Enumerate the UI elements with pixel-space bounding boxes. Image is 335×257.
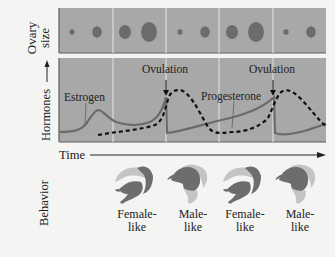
behavior-label-4: Male- like — [275, 208, 325, 234]
lizard-pair-icon-4 — [275, 164, 315, 203]
behavior-label-1-line2: like — [112, 221, 162, 234]
time-axis-label: Time — [59, 149, 85, 161]
ovulation-label-2: Ovulation — [249, 63, 295, 75]
ovary-size-axis-label: Ovary size — [25, 17, 53, 59]
behavior-label-3-line2: like — [220, 221, 270, 234]
estrogen-label: Estrogen — [64, 91, 105, 103]
lizard-pair-icon-1 — [115, 166, 153, 203]
behavior-label-2: Male- like — [168, 208, 218, 234]
behavior-axis-label: Behavior — [38, 175, 52, 231]
ovulation-label-1: Ovulation — [142, 63, 188, 75]
lizard-pair-icon-2 — [167, 164, 207, 203]
behavior-label-3: Female- like — [220, 208, 270, 234]
behavior-label-1: Female- like — [112, 208, 162, 234]
hormones-axis-arrow — [45, 60, 50, 82]
lizard-pair-icon-3 — [223, 166, 261, 203]
behavior-label-4-line2: like — [275, 221, 325, 234]
behavior-label-2-line2: like — [168, 221, 218, 234]
ovary-label-line2: size — [38, 17, 51, 59]
ovary-size-panel — [59, 8, 326, 53]
progesterone-label: Progesterone — [201, 90, 261, 102]
time-axis-arrow — [90, 152, 326, 158]
ovarian-cycle-diagram: Ovary size Hormones Behavior Estrogen Pr… — [0, 0, 335, 257]
hormones-axis-label: Hormones — [40, 85, 54, 145]
